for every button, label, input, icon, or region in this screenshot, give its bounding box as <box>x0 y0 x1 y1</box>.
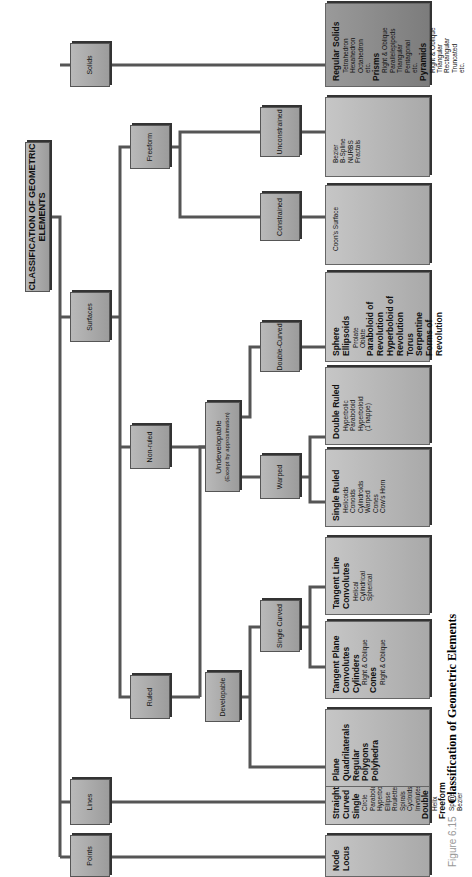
diagram-title: CLASSIFICATION OF GEOMETRIC ELEMENTS <box>25 142 50 292</box>
leaf-text: Cones <box>369 627 379 693</box>
leaf-text: Locus <box>342 841 352 871</box>
leaf-text: Ellipsoids <box>342 278 352 356</box>
leaf-text: Cones <box>372 455 379 521</box>
leaf-text: Octahedron <box>357 9 364 81</box>
leaf-text: Cylindroids <box>357 455 364 521</box>
diagram-canvas: CLASSIFICATION OF GEOMETRIC ELEMENTS Poi… <box>0 0 472 877</box>
leaf-box: PlaneQuadrilateralsRegularPolygonsPolyhe… <box>325 709 430 787</box>
leaf-text: Triangular <box>436 9 443 81</box>
leaf-text: Polyhedra <box>371 715 381 781</box>
leaf-text: Prolate <box>352 278 359 356</box>
leaf-text: Prisms <box>372 9 382 81</box>
node-developable: Developable <box>205 672 240 722</box>
leaf-text: Helicoids <box>342 455 349 521</box>
leaf-text: Revolution <box>435 278 445 356</box>
node-ruled: Ruled <box>130 675 170 719</box>
leaf-text: Pentagonal <box>404 9 411 81</box>
leaf-text: Double Ruled <box>332 373 342 439</box>
leaf-text: (1 nappe) <box>364 373 371 439</box>
leaf-box: Tangent LineConvolutesHelicalCylindrical… <box>325 537 430 615</box>
leaf-text: Hyperboloid <box>357 373 364 439</box>
leaf-text: Cylinders <box>352 627 362 693</box>
node-unconstrained: Unconstrained <box>260 107 300 157</box>
node-freeform: Freeform <box>130 125 170 169</box>
leaf-text: Parallelepipeds <box>389 9 396 81</box>
leaf-text: Fractals <box>354 103 361 171</box>
undevelopable-label: Undevelopable <box>215 420 224 473</box>
leaf-text: Helical <box>352 543 359 609</box>
leaf-text: Truncated <box>451 9 458 81</box>
node-single-curved: Single Curved <box>260 600 300 652</box>
node-warped: Warped <box>260 455 300 499</box>
node-points: Points <box>70 835 110 877</box>
node-undevelopable: Undevelopable (Except by approximation) <box>205 402 240 492</box>
leaf-text: Right & Oblique <box>379 627 386 693</box>
figure-title: Classification of Geometric Elements <box>445 614 459 804</box>
figure-caption: Figure 6.15 Classification of Geometric … <box>445 614 460 867</box>
node-double-curved: Double-Curved <box>260 322 300 372</box>
node-constrained: Constrained <box>260 193 300 241</box>
leaf-text: Pyramids <box>419 9 429 81</box>
leaf-text: Bezier <box>332 103 339 171</box>
leaf-text: B-Spline <box>339 103 346 171</box>
leaf-text: Regular Solids <box>332 9 342 81</box>
leaf-text: Right & Oblique <box>381 9 388 81</box>
leaf-text: Cow's Horn <box>379 455 386 521</box>
leaf-text: Rectangular <box>443 9 450 81</box>
leaf-text: Coon's Surface <box>332 191 339 259</box>
node-lines: Lines <box>70 779 110 825</box>
leaf-box: SphereEllipsoidsProlateOblateParaboloid … <box>325 272 430 362</box>
leaf-text: Tetrahedron <box>342 9 349 81</box>
leaf-text: Hyperbolic <box>342 373 349 439</box>
leaf-text: Single Ruled <box>332 455 342 521</box>
leaf-box: Coon's Surface <box>325 185 430 265</box>
node-solids: Solids <box>70 43 110 87</box>
leaf-box: Tangent PlaneConvolutesCylindersRight & … <box>325 621 430 699</box>
leaf-box: NodeLocus <box>325 835 430 877</box>
leaf-text: Hexahedron <box>349 9 356 81</box>
node-surfaces: Surfaces <box>70 292 110 342</box>
leaf-box: Regular SolidsTetrahedronHexahedronOctah… <box>325 3 430 87</box>
leaf-text: Cylindrical <box>359 543 366 609</box>
leaf-text: Warped <box>364 455 371 521</box>
leaf-text: Spherical <box>366 543 373 609</box>
leaf-box: Double RuledHyperbolicParaboloidHyperbol… <box>325 367 430 445</box>
leaf-text: etc. <box>458 9 465 81</box>
leaf-box: BezierB-SplineNURBSFractals <box>325 97 430 177</box>
leaf-text: Paraboloid <box>349 373 356 439</box>
leaf-text: Right & Oblique <box>429 9 436 81</box>
figure-number: Figure 6.15 <box>447 816 458 867</box>
undevelopable-note: (Except by approximation) <box>224 412 231 482</box>
leaf-text: Triangular <box>396 9 403 81</box>
node-non-ruled: Non-ruled <box>130 425 170 469</box>
leaf-text: NURBS <box>347 103 354 171</box>
leaf-box: Single RuledHelicoidsConoidsCylindroidsW… <box>325 449 430 527</box>
leaf-text: Conoids <box>349 455 356 521</box>
leaf-text: Convolutes <box>342 543 352 609</box>
